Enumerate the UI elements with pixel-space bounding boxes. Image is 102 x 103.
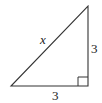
right-triangle-diagram: x 3 3 [0,0,102,103]
triangle [11,6,88,86]
vertical-leg-label: 3 [91,41,98,56]
hypotenuse-label: x [39,32,46,47]
right-angle-marker [78,77,88,86]
horizontal-leg-label: 3 [52,88,59,103]
